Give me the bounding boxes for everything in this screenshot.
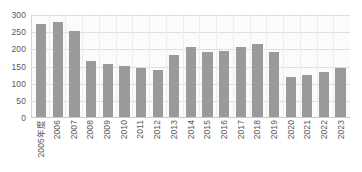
x-axis-slot: 2012 <box>149 119 166 172</box>
x-axis-tick: 2010 <box>119 120 129 139</box>
bar[interactable] <box>302 75 312 117</box>
bar[interactable] <box>335 68 345 117</box>
x-axis-slot: 2021 <box>299 119 316 172</box>
x-axis-slot: 2015 <box>199 119 216 172</box>
bar-slot <box>50 15 67 117</box>
x-axis-tick: 2009 <box>102 120 112 139</box>
x-axis-slot: 2009 <box>99 119 116 172</box>
y-axis-tick: 50 <box>16 96 26 106</box>
x-axis-slot: 2017 <box>232 119 249 172</box>
bar-slot <box>332 15 349 117</box>
bar-slot <box>149 15 166 117</box>
x-axis-slot: 2022 <box>316 119 333 172</box>
bar[interactable] <box>202 52 212 117</box>
x-axis-slot: 2005年度 <box>32 119 49 172</box>
bar-slot <box>66 15 83 117</box>
bar-slot <box>83 15 100 117</box>
x-axis-tick: 2021 <box>302 120 312 139</box>
bar[interactable] <box>103 64 113 117</box>
bar[interactable] <box>186 47 196 117</box>
x-axis-slot: 2019 <box>266 119 283 172</box>
bar-slot <box>299 15 316 117</box>
bar-slot <box>282 15 299 117</box>
bar[interactable] <box>252 44 262 117</box>
bar[interactable] <box>236 47 246 117</box>
bar[interactable] <box>53 22 63 117</box>
bar[interactable] <box>69 31 79 117</box>
x-axis: 2005年度2006200720082009201020112012201320… <box>31 119 350 172</box>
x-axis-tick: 2017 <box>236 120 246 139</box>
bar[interactable] <box>169 55 179 117</box>
bar-slot <box>133 15 150 117</box>
bar-series <box>32 15 350 117</box>
x-axis-slot: 2020 <box>282 119 299 172</box>
bar[interactable] <box>286 77 296 117</box>
x-axis-slot: 2010 <box>115 119 132 172</box>
bar-chart: 300250200150100500 2005年度200620072008200… <box>0 0 362 172</box>
x-axis-tick: 2019 <box>269 120 279 139</box>
y-axis-tick: 300 <box>12 10 26 20</box>
x-axis-tick: 2005年度 <box>34 120 46 158</box>
bar-slot <box>33 15 50 117</box>
x-axis-slot: 2018 <box>249 119 266 172</box>
bar-slot <box>116 15 133 117</box>
x-axis-tick: 2022 <box>319 120 329 139</box>
bar[interactable] <box>119 66 129 117</box>
x-axis-slot: 2023 <box>332 119 349 172</box>
x-axis-slot: 2008 <box>82 119 99 172</box>
bar-slot <box>316 15 333 117</box>
bar-slot <box>183 15 200 117</box>
bar-slot <box>199 15 216 117</box>
x-axis-slot: 2014 <box>182 119 199 172</box>
y-axis: 300250200150100500 <box>0 15 30 118</box>
x-axis-tick: 2015 <box>202 120 212 139</box>
y-axis-tick: 0 <box>21 113 26 123</box>
bar-slot <box>100 15 117 117</box>
bar-slot <box>216 15 233 117</box>
x-axis-tick: 2006 <box>52 120 62 139</box>
bar[interactable] <box>219 51 229 117</box>
x-axis-slot: 2016 <box>216 119 233 172</box>
x-axis-tick: 2020 <box>286 120 296 139</box>
x-axis-tick: 2023 <box>336 120 346 139</box>
bar-slot <box>266 15 283 117</box>
plot-area <box>31 15 350 118</box>
bar-slot <box>249 15 266 117</box>
x-axis-tick: 2012 <box>152 120 162 139</box>
x-axis-tick: 2013 <box>169 120 179 139</box>
y-axis-tick: 200 <box>12 44 26 54</box>
bar[interactable] <box>136 68 146 117</box>
x-axis-tick: 2007 <box>69 120 79 139</box>
x-axis-tick: 2008 <box>85 120 95 139</box>
y-axis-tick: 150 <box>12 62 26 72</box>
x-axis-tick: 2016 <box>219 120 229 139</box>
bar[interactable] <box>269 52 279 117</box>
x-axis-tick: 2011 <box>135 120 145 139</box>
x-axis-tick: 2018 <box>252 120 262 139</box>
bar[interactable] <box>36 24 46 117</box>
bar[interactable] <box>319 72 329 117</box>
y-axis-tick: 100 <box>12 79 26 89</box>
bar-slot <box>166 15 183 117</box>
y-axis-tick: 250 <box>12 27 26 37</box>
x-axis-slot: 2007 <box>65 119 82 172</box>
bar[interactable] <box>86 61 96 117</box>
bar[interactable] <box>153 70 163 117</box>
x-axis-slot: 2011 <box>132 119 149 172</box>
x-axis-tick: 2014 <box>186 120 196 139</box>
x-axis-slot: 2006 <box>49 119 66 172</box>
bar-slot <box>233 15 250 117</box>
x-axis-slot: 2013 <box>166 119 183 172</box>
